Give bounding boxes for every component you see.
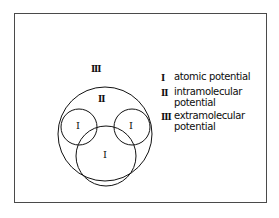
legend-numeral-i: I bbox=[161, 72, 174, 84]
legend-line: potential bbox=[174, 122, 245, 133]
venn-diagram: III II I I I bbox=[43, 58, 168, 198]
legend-numeral-iii: III bbox=[161, 111, 174, 123]
label-atom-left: I bbox=[76, 121, 80, 131]
label-extramolecular-region: III bbox=[91, 65, 100, 74]
figure-root: III II I I I I atomic potential II intra… bbox=[0, 0, 279, 218]
label-atom-bottom: I bbox=[103, 150, 107, 160]
label-atom-right: I bbox=[129, 121, 133, 131]
legend-label-atomic: atomic potential bbox=[174, 72, 250, 83]
figure-frame: III II I I I I atomic potential II intra… bbox=[14, 13, 267, 203]
legend-item-atomic: I atomic potential bbox=[161, 72, 279, 84]
legend-label-intramolecular: intramolecular potential bbox=[174, 87, 242, 108]
legend-item-intramolecular: II intramolecular potential bbox=[161, 87, 279, 108]
legend-numeral-ii: II bbox=[161, 87, 174, 99]
legend: I atomic potential II intramolecular pot… bbox=[161, 72, 279, 135]
legend-line: potential bbox=[174, 98, 242, 109]
legend-line: atomic potential bbox=[174, 72, 250, 83]
circle-intramolecular bbox=[58, 87, 152, 181]
legend-line: extramolecular bbox=[174, 111, 245, 122]
label-intramolecular-region: II bbox=[98, 95, 105, 104]
legend-item-extramolecular: III extramolecular potential bbox=[161, 111, 279, 132]
legend-line: intramolecular bbox=[174, 87, 242, 98]
venn-svg bbox=[43, 58, 168, 198]
legend-label-extramolecular: extramolecular potential bbox=[174, 111, 245, 132]
